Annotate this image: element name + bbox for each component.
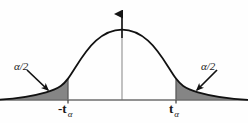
tick-label-left-subscript: α	[67, 109, 73, 119]
t-distribution-diagram: α/2 α/2 -tα tα	[0, 0, 248, 123]
tick-label-left-main: -t	[58, 101, 67, 116]
axis-tick-label-positive-t-alpha: tα	[169, 102, 179, 119]
axis-tick-label-negative-t-alpha: -tα	[58, 102, 72, 119]
right-tail-shaded-region	[176, 79, 248, 100]
tick-label-right-subscript: α	[173, 109, 179, 119]
left-annotation-arrow-icon	[27, 70, 48, 90]
alpha-over-two-label-left: α/2	[14, 61, 28, 72]
left-tail-shaded-region	[0, 79, 68, 100]
right-annotation-arrow-icon	[197, 70, 217, 90]
alpha-over-two-label-right: α/2	[201, 61, 215, 72]
